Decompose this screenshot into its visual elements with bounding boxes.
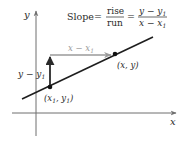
frac2-denominator: x − x1: [139, 18, 166, 29]
run-label: x − x1: [68, 43, 94, 54]
point-x1-y1-label: (x1, y1): [44, 93, 73, 104]
slope-label: Slope: [67, 11, 94, 22]
rise-text: rise: [107, 6, 124, 16]
x-axis-label: x: [170, 116, 176, 127]
slope-diagram: y x Slope = rise run = y − y1 x − x1 x −…: [0, 0, 183, 145]
point-x-y-label: (x, y): [117, 60, 139, 70]
rise-label: y − y1: [17, 69, 45, 80]
equals-sign-2: =: [127, 11, 135, 22]
point-x-y: [113, 52, 118, 57]
run-text: run: [107, 18, 123, 28]
equals-sign-1: =: [94, 11, 102, 22]
point-x1-y1: [48, 85, 53, 90]
frac2-numerator: y − y1: [138, 6, 166, 17]
y-axis-label: y: [23, 9, 30, 20]
diagram-svg: y x Slope = rise run = y − y1 x − x1 x −…: [0, 0, 183, 145]
